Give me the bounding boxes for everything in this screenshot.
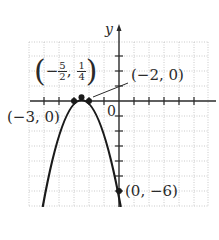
point-x-intercept-left (71, 98, 77, 104)
origin-label: 0 (107, 104, 116, 118)
y-axis-label: y (105, 22, 113, 36)
vertex-open-paren: ( (34, 53, 46, 88)
point-label-left-intercept: (−3, 0) (7, 110, 60, 125)
point-vertex (79, 94, 85, 100)
vertex-close-paren: ) (86, 53, 98, 88)
vertex-x-fraction: 52 (58, 61, 66, 82)
leader-line (93, 83, 128, 97)
point-label-y-intercept: (0, −6) (125, 184, 178, 199)
point-y-intercept (116, 188, 122, 194)
vertex-y-fraction: 14 (77, 61, 85, 82)
vertex-minus: − (46, 62, 59, 80)
point-label-right-intercept: (−2, 0) (131, 68, 184, 83)
y-axis-arrow-icon (117, 24, 122, 31)
point-x-intercept-right (86, 98, 92, 104)
vertex-label: (−52,14) (34, 56, 98, 86)
